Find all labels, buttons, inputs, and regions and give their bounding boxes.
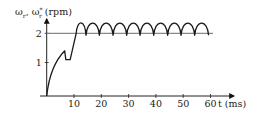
x-tick-label: 10 xyxy=(68,98,80,109)
speed-chart: 102030405060 12 ωr, ω*r (rpm) t (ms) xyxy=(0,0,261,115)
x-axis-label: t (ms) xyxy=(218,98,246,109)
y-tick-label: 2 xyxy=(36,28,42,39)
x-tick-label: 20 xyxy=(95,98,107,109)
x-tick-label: 60 xyxy=(204,98,216,109)
y-axis-label: ωr, ω*r (rpm) xyxy=(15,6,72,19)
x-tick-label: 40 xyxy=(150,98,162,109)
x-tick-label: 50 xyxy=(177,98,189,109)
y-tick-label: 1 xyxy=(36,57,42,68)
x-tick-label: 30 xyxy=(123,98,135,109)
